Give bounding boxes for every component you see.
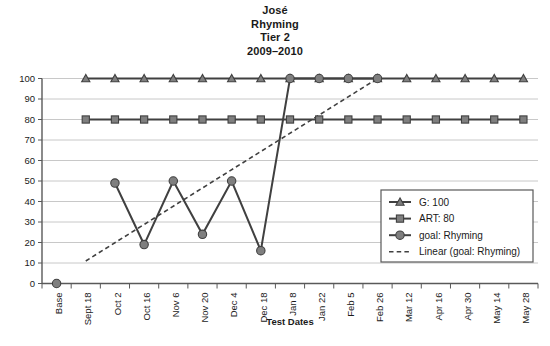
x-tick-marks-group — [42, 284, 538, 289]
x-tick-label: Oct 2 — [112, 293, 123, 316]
series-line — [115, 79, 378, 251]
x-tick-label: May 28 — [520, 293, 531, 324]
x-axis-title: Test Dates — [266, 316, 313, 327]
data-point-marker — [111, 179, 119, 187]
y-tick-label: 20 — [24, 237, 35, 248]
data-point-marker — [82, 116, 89, 123]
data-point-marker — [403, 116, 410, 123]
x-tick-label: Jan 8 — [287, 293, 298, 316]
legend-item-label: ART: 80 — [419, 213, 455, 224]
x-tick-label: Oct 16 — [141, 293, 152, 321]
x-tick-label: Sept 18 — [82, 293, 93, 326]
data-point-marker — [373, 74, 381, 82]
chart-plot-area: 0102030405060708090100 BaseSept 18Oct 2O… — [0, 0, 550, 346]
data-point-marker — [169, 177, 177, 185]
data-point-marker — [286, 116, 293, 123]
data-point-marker — [228, 116, 235, 123]
series-square — [82, 116, 527, 123]
x-tick-label: Feb 5 — [345, 293, 356, 317]
data-point-marker — [199, 116, 206, 123]
data-point-marker — [170, 116, 177, 123]
x-tick-label: Apr 30 — [462, 293, 473, 321]
data-point-marker — [198, 230, 206, 238]
data-point-marker — [111, 116, 118, 123]
x-tick-label: Mar 12 — [403, 293, 414, 323]
y-tick-label: 100 — [19, 73, 35, 84]
data-point-marker — [344, 74, 352, 82]
data-point-marker — [257, 116, 264, 123]
data-point-marker — [257, 247, 265, 255]
data-point-marker — [315, 74, 323, 82]
legend-circle-icon — [396, 231, 404, 239]
x-tick-label: Feb 26 — [374, 293, 385, 323]
y-tick-label: 70 — [24, 134, 35, 145]
x-tick-label: Jan 22 — [316, 293, 327, 322]
y-tick-label: 30 — [24, 216, 35, 227]
data-point-marker — [432, 116, 439, 123]
data-point-marker — [316, 116, 323, 123]
x-tick-label: Apr 16 — [433, 293, 444, 321]
legend-item-label: goal: Rhyming — [419, 230, 483, 241]
data-point-marker — [141, 116, 148, 123]
x-tick-label: Nov 20 — [199, 293, 210, 323]
data-point-marker — [520, 116, 527, 123]
y-tick-label: 80 — [24, 114, 35, 125]
y-tick-labels-group: 0102030405060708090100 — [19, 73, 42, 289]
y-tick-label: 90 — [24, 93, 35, 104]
data-point-marker — [227, 177, 235, 185]
legend-box[interactable]: G: 100ART: 80goal: RhymingLinear (goal: … — [381, 190, 533, 262]
trendline-path — [86, 79, 378, 261]
x-tick-label: Dec 4 — [228, 293, 239, 318]
data-point-marker — [491, 116, 498, 123]
y-tick-label: 60 — [24, 155, 35, 166]
legend-item-label: Linear (goal: Rhyming) — [419, 246, 520, 257]
data-point-marker — [52, 279, 60, 287]
x-axis-title-group: Test Dates — [266, 316, 313, 327]
legend-square-icon — [396, 215, 403, 222]
legend-item-label: G: 100 — [419, 197, 449, 208]
data-point-marker — [374, 116, 381, 123]
data-point-marker — [461, 116, 468, 123]
y-tick-label: 50 — [24, 175, 35, 186]
x-tick-label: May 14 — [491, 293, 502, 324]
y-tick-label: 0 — [30, 278, 35, 289]
y-tick-label: 40 — [24, 196, 35, 207]
data-point-marker — [286, 74, 294, 82]
y-tick-label: 10 — [24, 257, 35, 268]
x-tick-label: Base — [53, 293, 64, 315]
x-tick-label: Nov 6 — [170, 293, 181, 318]
data-point-marker — [140, 240, 148, 248]
trendline-series — [86, 79, 378, 261]
chart-container: José Rhyming Tier 2 2009–2010 0102030405… — [0, 0, 550, 346]
data-point-marker — [345, 116, 352, 123]
legend-item-1[interactable]: ART: 80 — [389, 213, 455, 224]
